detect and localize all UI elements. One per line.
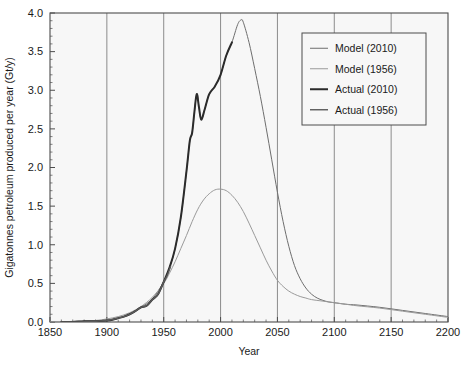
xtick-label-1950: 1950 <box>151 326 175 338</box>
ytick-label-1.0: 1.0 <box>28 239 43 251</box>
ytick-label-3.5: 3.5 <box>28 45 43 57</box>
xtick-label-1900: 1900 <box>95 326 119 338</box>
legend-item-label: Actual (2010) <box>335 83 397 95</box>
legend-item-label: Model (1956) <box>335 63 397 75</box>
y-axis-title: Gigatonnes petroleum produced per year (… <box>3 57 15 278</box>
ytick-label-0.0: 0.0 <box>28 316 43 328</box>
xtick-label-2200: 2200 <box>436 326 460 338</box>
legend-item-label: Model (2010) <box>335 42 397 54</box>
x-axis-title: Year <box>238 345 260 357</box>
xtick-label-2150: 2150 <box>379 326 403 338</box>
ytick-label-0.5: 0.5 <box>28 277 43 289</box>
chart-legend[interactable]: Model (2010)Model (1956)Actual (2010)Act… <box>302 33 426 125</box>
ytick-label-1.5: 1.5 <box>28 200 43 212</box>
xtick-label-2000: 2000 <box>208 326 232 338</box>
xtick-label-2050: 2050 <box>265 326 289 338</box>
legend-item-label: Actual (1956) <box>335 104 397 116</box>
petroleum-production-line-chart: 18501900195020002050210021502200 0.00.51… <box>0 0 462 365</box>
ytick-label-3.0: 3.0 <box>28 84 43 96</box>
ytick-label-2.5: 2.5 <box>28 123 43 135</box>
chart-container: 18501900195020002050210021502200 0.00.51… <box>0 0 462 365</box>
ytick-label-4.0: 4.0 <box>28 7 43 19</box>
xtick-label-2100: 2100 <box>322 326 346 338</box>
ytick-label-2.0: 2.0 <box>28 161 43 173</box>
y-axis-tick-labels: 0.00.51.01.52.02.53.03.54.0 <box>28 7 43 328</box>
